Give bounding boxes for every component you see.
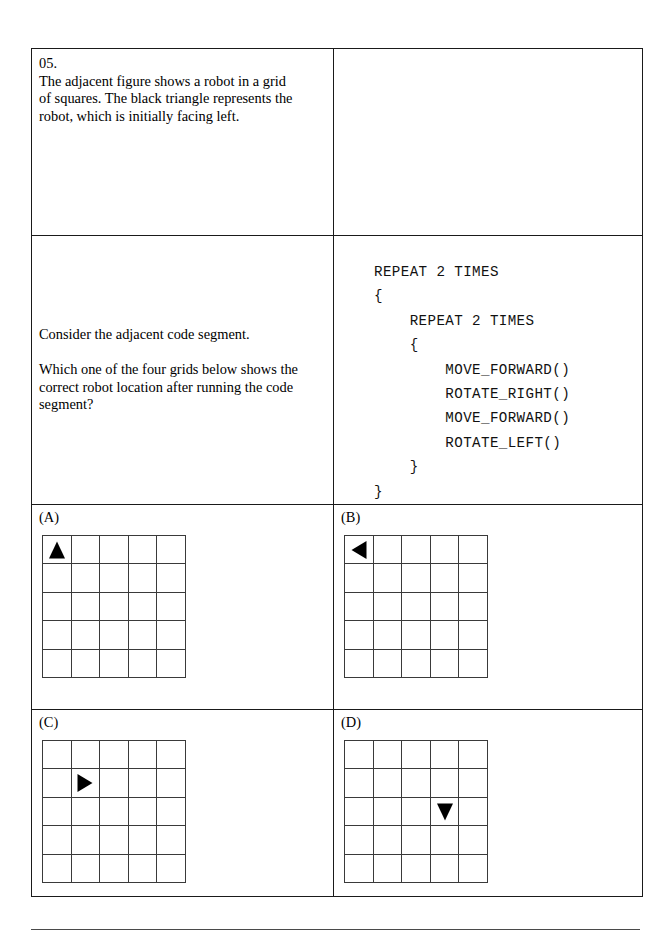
option-grid-0-cell	[157, 593, 186, 621]
option-grid-3-cell	[402, 855, 431, 883]
option-grid-1-cell	[402, 564, 431, 592]
option-label-a: (A)	[39, 509, 59, 525]
option-grid-0-cell	[157, 536, 186, 564]
option-grid-1-cell	[345, 564, 374, 592]
option-grid-2-cell	[157, 826, 186, 854]
option-grid-0-cell	[157, 621, 186, 649]
intro-line-1: The adjacent figure shows a robot in a g…	[39, 73, 325, 91]
option-grid-3-cell	[431, 798, 460, 826]
option-grid-2-cell	[100, 741, 129, 769]
option-b-inner: (B)	[334, 505, 642, 709]
intro-text-pad: 05. The adjacent figure shows a robot in…	[32, 49, 333, 235]
prompt-line-1: Consider the adjacent code segment.	[39, 326, 325, 344]
option-grid-0-cell	[100, 650, 129, 678]
option-grid-2-cell	[72, 855, 101, 883]
option-cell-c[interactable]: (C)	[32, 710, 334, 897]
option-grid-1-cell	[345, 621, 374, 649]
option-grid-1-cell	[374, 593, 403, 621]
option-grid-0-cell	[72, 650, 101, 678]
option-grid-3-cell	[345, 826, 374, 854]
footer-divider	[31, 929, 640, 930]
option-grid-2-cell	[129, 798, 158, 826]
option-grid-3-cell	[431, 826, 460, 854]
option-grid-1-cell	[459, 621, 488, 649]
option-grid-0-cell	[129, 564, 158, 592]
option-grid-2-cell	[72, 826, 101, 854]
option-cell-d[interactable]: (D)	[334, 710, 643, 897]
option-label-d: (D)	[341, 714, 361, 730]
option-grid-2-cell	[100, 798, 129, 826]
option-grid-2-cell	[43, 826, 72, 854]
option-grid-3-cell	[374, 769, 403, 797]
option-grid-1-cell	[374, 621, 403, 649]
option-grid-3-cell	[402, 769, 431, 797]
prompt-cell: Consider the adjacent code segment. Whic…	[32, 236, 334, 505]
option-grid-3-cell	[374, 798, 403, 826]
question-table: 05. The adjacent figure shows a robot in…	[31, 48, 643, 897]
code-cell: REPEAT 2 TIMES { REPEAT 2 TIMES { MOVE_F…	[334, 236, 643, 505]
option-grid-2-cell	[100, 826, 129, 854]
option-grid-0-cell	[43, 564, 72, 592]
option-grid-0-cell	[129, 621, 158, 649]
option-grid-2-cell	[157, 769, 186, 797]
option-grid-0-cell	[100, 593, 129, 621]
option-grid-1-cell	[374, 650, 403, 678]
option-grid-3-cell	[374, 826, 403, 854]
option-cell-a[interactable]: (A)	[32, 505, 334, 710]
option-grid-0-cell	[43, 536, 72, 564]
robot-triangle-down-icon	[437, 803, 453, 820]
option-grid-1-cell	[345, 650, 374, 678]
figure-cell-inner	[334, 49, 642, 235]
option-cell-b[interactable]: (B)	[334, 505, 643, 710]
option-d-inner: (D)	[334, 710, 642, 896]
option-grid-1-cell	[345, 536, 374, 564]
option-grid-0-cell	[129, 536, 158, 564]
option-grid-2-cell	[157, 855, 186, 883]
option-grid-3-cell	[374, 741, 403, 769]
worksheet-page: 05. The adjacent figure shows a robot in…	[0, 0, 670, 945]
option-grid-3-cell	[431, 769, 460, 797]
option-grid-1-cell	[459, 650, 488, 678]
option-grid-2-cell	[72, 798, 101, 826]
option-grid-0-cell	[157, 650, 186, 678]
option-grid-c	[42, 740, 186, 883]
intro-line-2: of squares. The black triangle represent…	[39, 90, 325, 108]
option-grid-3-cell	[431, 855, 460, 883]
option-grid-2-cell	[129, 769, 158, 797]
option-grid-0-cell	[129, 650, 158, 678]
option-grid-3-cell	[459, 798, 488, 826]
option-grid-d	[344, 740, 488, 883]
option-grid-2-cell	[43, 769, 72, 797]
option-grid-3-cell	[402, 798, 431, 826]
option-grid-1-cell	[402, 536, 431, 564]
option-grid-2-cell	[129, 741, 158, 769]
robot-triangle-right-icon	[78, 774, 93, 792]
option-grid-3-cell	[345, 798, 374, 826]
option-grid-1-cell	[459, 593, 488, 621]
option-grid-3-cell	[459, 855, 488, 883]
figure-cell	[334, 49, 643, 236]
intro-text: 05. The adjacent figure shows a robot in…	[39, 55, 325, 125]
option-grid-1-cell	[402, 650, 431, 678]
option-grid-2-cell	[129, 826, 158, 854]
option-grid-2-cell	[100, 769, 129, 797]
option-grid-2-cell	[43, 798, 72, 826]
option-grid-0-cell	[72, 564, 101, 592]
table-row-intro: 05. The adjacent figure shows a robot in…	[32, 49, 643, 236]
option-grid-0-cell	[100, 621, 129, 649]
option-c-inner: (C)	[32, 710, 333, 896]
option-grid-3-cell	[402, 741, 431, 769]
option-grid-0-cell	[100, 536, 129, 564]
option-grid-1-cell	[431, 564, 460, 592]
intro-text-cell: 05. The adjacent figure shows a robot in…	[32, 49, 334, 236]
table-row-code: Consider the adjacent code segment. Whic…	[32, 236, 643, 505]
option-grid-2-cell	[129, 855, 158, 883]
option-grid-2-cell	[157, 798, 186, 826]
option-grid-1-cell	[431, 650, 460, 678]
option-grid-2-cell	[43, 741, 72, 769]
table-row-options-cd: (C) (D)	[32, 710, 643, 897]
option-grid-1-cell	[402, 593, 431, 621]
option-grid-1-cell	[374, 564, 403, 592]
option-grid-2-cell	[72, 769, 101, 797]
option-grid-0-cell	[43, 593, 72, 621]
